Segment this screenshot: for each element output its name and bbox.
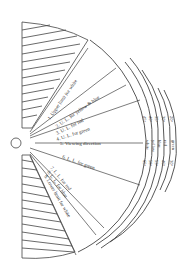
svg-text:45°: 45° [142, 116, 147, 123]
right-labels: white yellow blue red green 45° 40° 35° … [142, 116, 176, 167]
svg-text:blue: blue [157, 140, 162, 148]
color-visual-field-diagram: 1. Upper limit for white 2. U. L. for ye… [0, 0, 188, 269]
limit-lines [30, 48, 143, 255]
svg-text:65°: 65° [142, 160, 147, 167]
svg-text:58°: 58° [148, 160, 153, 167]
eye-icon [11, 138, 21, 148]
label-6: 6. L. L. for green [62, 154, 96, 171]
svg-text:white: white [145, 140, 150, 150]
svg-text:30°: 30° [161, 116, 166, 123]
svg-text:53°: 53° [154, 160, 159, 167]
svg-text:46°: 46° [161, 160, 166, 167]
svg-text:20°: 20° [169, 116, 174, 123]
svg-text:yellow: yellow [151, 140, 156, 153]
svg-text:30°: 30° [169, 160, 174, 167]
svg-text:40°: 40° [148, 116, 153, 123]
svg-text:red: red [163, 140, 168, 146]
svg-text:green: green [171, 140, 176, 151]
label-5: 5. Viewing direction [60, 141, 101, 146]
svg-text:35°: 35° [154, 116, 159, 123]
